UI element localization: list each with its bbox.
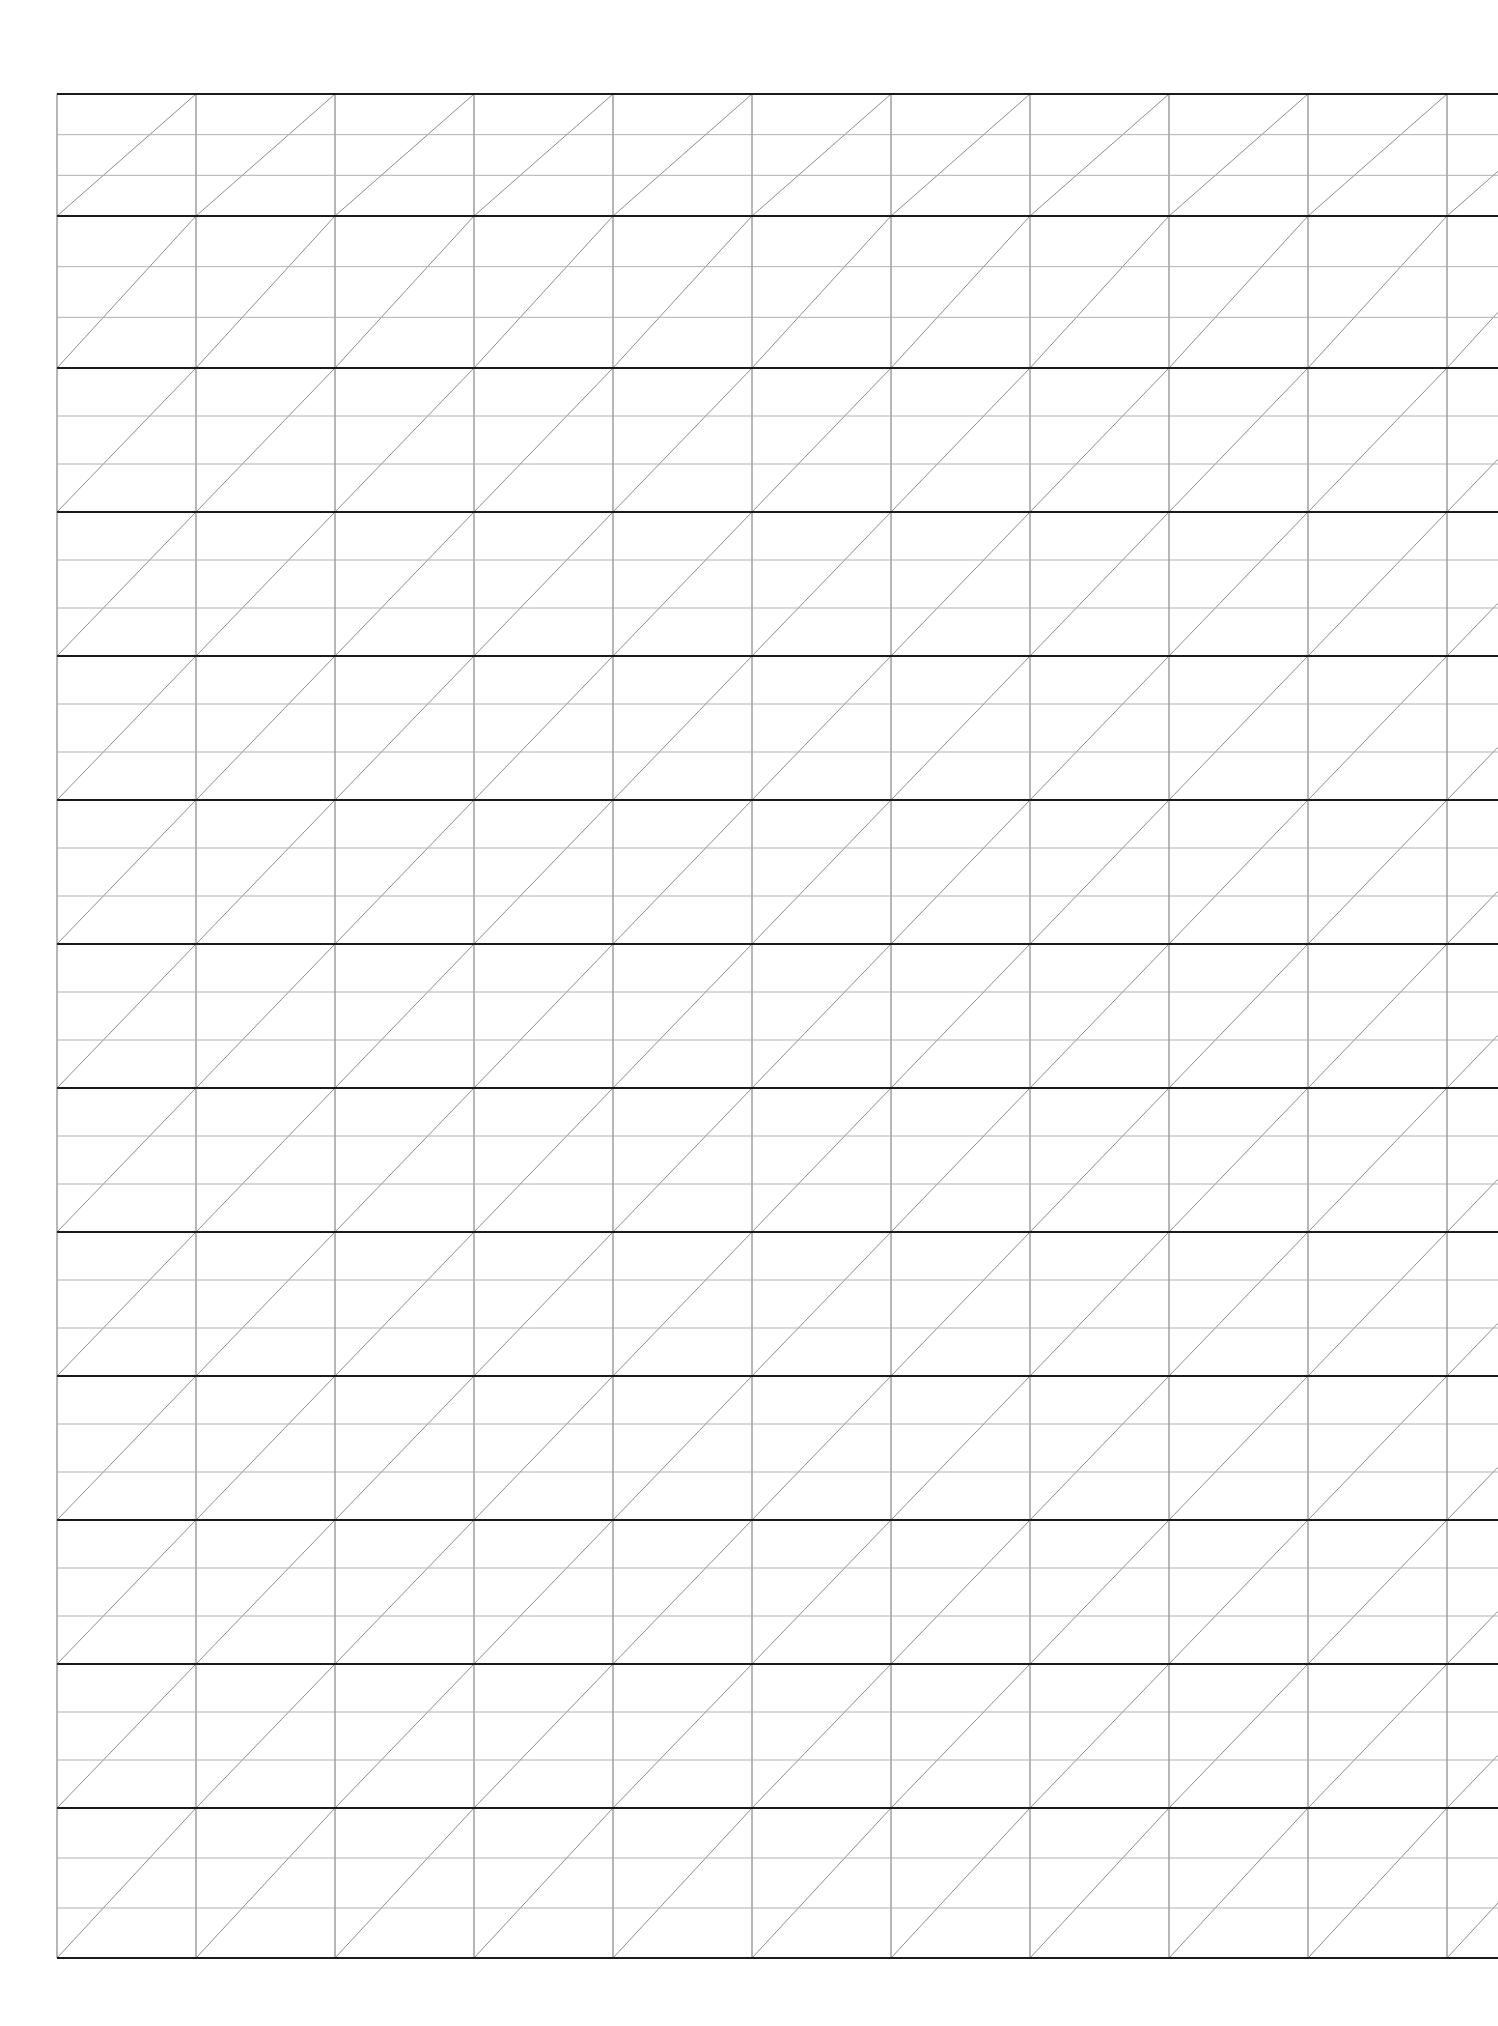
grid-paper-page (0, 0, 1498, 2026)
grid-drawing (0, 0, 1498, 2026)
paper-background (0, 0, 1498, 2026)
